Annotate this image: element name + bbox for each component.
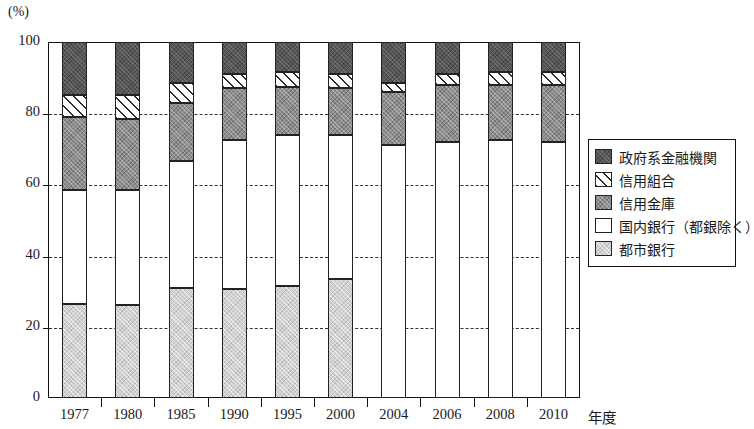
bar-segment-domestic	[381, 145, 406, 398]
x-axis-label: 2008	[473, 406, 527, 423]
legend-item[interactable]: 信用金庫	[595, 191, 729, 214]
bar-segment-shinkin	[381, 92, 406, 145]
x-axis-label: 1977	[48, 406, 102, 423]
bar-segment-kumiai	[541, 72, 566, 84]
bar-segment-city	[115, 305, 140, 398]
legend-item[interactable]: 国内銀行（都銀除く）	[595, 214, 729, 237]
bar-segment-shinkin	[222, 88, 247, 140]
y-axis-tick	[43, 257, 49, 258]
bar-segment-city	[275, 286, 300, 398]
y-axis-unit-label: (%)	[8, 4, 29, 20]
bar-segment-domestic	[275, 135, 300, 286]
bar-segment-gov	[328, 42, 353, 74]
bar-2000	[328, 42, 353, 398]
legend-item-label: 信用金庫	[619, 193, 675, 213]
x-axis-label: 1990	[207, 406, 261, 423]
x-axis-label: 2010	[526, 406, 580, 423]
bar-segment-domestic	[328, 135, 353, 279]
bar-1995	[275, 42, 300, 398]
y-axis-label: 100	[0, 32, 40, 49]
bar-segment-city	[222, 289, 247, 398]
legend-item-label: 政府系金融機関	[619, 147, 717, 167]
x-axis-label: 1985	[154, 406, 208, 423]
y-axis-label: 0	[0, 388, 40, 405]
legend-item-label: 国内銀行（都銀除く）	[619, 216, 754, 236]
bar-segment-domestic	[169, 161, 194, 287]
y-axis-tick	[43, 328, 49, 329]
bar-segment-gov	[488, 42, 513, 72]
y-axis-label: 40	[0, 246, 40, 263]
bar-1990	[222, 42, 247, 398]
bar-segment-domestic	[488, 140, 513, 398]
legend-item-label: 信用組合	[619, 170, 675, 190]
x-axis-label: 1995	[260, 406, 314, 423]
bar-1985	[169, 42, 194, 398]
x-axis-label: 2006	[420, 406, 474, 423]
white-swatch	[595, 218, 612, 233]
bar-segment-kumiai	[169, 83, 194, 103]
bar-2008	[488, 42, 513, 398]
legend-item[interactable]: 都市銀行	[595, 237, 729, 260]
bar-segment-domestic	[115, 190, 140, 306]
legend-item-label: 都市銀行	[619, 239, 675, 259]
y-axis-label: 60	[0, 174, 40, 191]
bar-segment-domestic	[222, 140, 247, 290]
bar-segment-shinkin	[435, 85, 460, 142]
bar-segment-city	[62, 304, 87, 398]
bar-segment-kumiai	[435, 74, 460, 85]
bar-segment-gov	[62, 42, 87, 95]
y-axis-tick	[43, 185, 49, 186]
bar-segment-gov	[381, 42, 406, 83]
bar-segment-kumiai	[328, 74, 353, 88]
bar-segment-gov	[435, 42, 460, 74]
bar-segment-kumiai	[275, 72, 300, 86]
bar-segment-domestic	[541, 142, 566, 398]
bar-segment-gov	[541, 42, 566, 72]
bar-2004	[381, 42, 406, 398]
light-gray-swatch	[595, 241, 612, 256]
bar-segment-shinkin	[488, 85, 513, 140]
bar-1980	[115, 42, 140, 398]
bar-segment-shinkin	[169, 103, 194, 162]
x-axis-label: 2004	[367, 406, 421, 423]
x-axis-label: 2000	[314, 406, 368, 423]
bar-segment-gov	[115, 42, 140, 95]
y-axis-label: 20	[0, 317, 40, 334]
bar-segment-shinkin	[115, 119, 140, 190]
legend: 政府系金融機関信用組合信用金庫国内銀行（都銀除く）都市銀行	[588, 139, 736, 267]
bar-segment-kumiai	[381, 83, 406, 92]
bar-segment-kumiai	[115, 95, 140, 118]
bar-segment-kumiai	[488, 72, 513, 84]
x-axis-title: 年度	[588, 406, 616, 427]
bar-segment-shinkin	[328, 88, 353, 134]
bar-segment-domestic	[62, 190, 87, 304]
bar-segment-gov	[169, 42, 194, 83]
medium-gray-swatch	[595, 195, 612, 210]
dark-gray-swatch	[595, 149, 612, 164]
bar-1977	[62, 42, 87, 398]
bar-segment-kumiai	[222, 74, 247, 88]
legend-item[interactable]: 政府系金融機関	[595, 145, 729, 168]
bar-segment-shinkin	[62, 117, 87, 190]
y-axis-tick	[43, 114, 49, 115]
hatch-swatch	[595, 172, 612, 187]
x-axis-label: 1980	[101, 406, 155, 423]
bar-segment-gov	[275, 42, 300, 72]
bar-2006	[435, 42, 460, 398]
bar-segment-shinkin	[541, 85, 566, 142]
bar-segment-city	[169, 288, 194, 398]
bar-segment-domestic	[435, 142, 460, 398]
y-axis-label: 80	[0, 103, 40, 120]
bar-2010	[541, 42, 566, 398]
bar-segment-shinkin	[275, 87, 300, 135]
bar-segment-kumiai	[62, 95, 87, 116]
bar-segment-gov	[222, 42, 247, 74]
bar-segment-city	[328, 279, 353, 398]
legend-item[interactable]: 信用組合	[595, 168, 729, 191]
